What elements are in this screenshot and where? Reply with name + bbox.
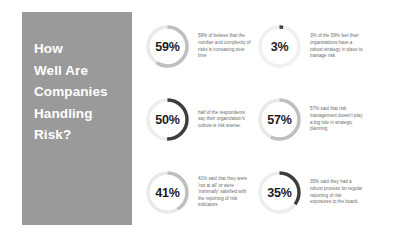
stat-description-3: 3% of the 59% feel their organizations h… [310,33,364,59]
infographic-root: How Well Are Companies Handling Risk? 59… [0,0,403,237]
donut-chart-35: 35% [256,169,303,216]
stat-description-59: 59% of believe that the number and compl… [198,33,252,59]
donut-value-3: 3% [256,23,303,70]
page-title-line-3: Companies [34,81,132,103]
stats-grid: 59% 59% of believe that the number and c… [144,10,403,230]
donut-chart-41: 41% [144,169,191,216]
stat-item-3: 3% 3% of the 59% feel their organization… [256,10,366,83]
donut-chart-50: 50% [144,96,191,143]
page-title-line-5: Risk? [34,124,132,146]
stat-description-50: half of the respondents say their organi… [198,110,252,130]
donut-chart-59: 59% [144,23,191,70]
stat-description-57: 57% said that risk management doesn't pl… [310,106,364,132]
donut-chart-57: 57% [256,96,303,143]
stat-item-57: 57% 57% said that risk management doesn'… [256,83,366,156]
donut-value-50: 50% [144,96,191,143]
stat-description-41: 41% said that they were 'not at all' or … [198,176,252,209]
donut-value-35: 35% [256,169,303,216]
donut-value-57: 57% [256,96,303,143]
stat-description-35: 35% said they had a robust process for r… [310,179,364,205]
page-title-line-4: Handling [34,103,132,125]
stat-item-50: 50% half of the respondents say their or… [144,83,254,156]
stat-item-35: 35% 35% said they had a robust process f… [256,156,366,229]
stat-item-41: 41% 41% said that they were 'not at all'… [144,156,254,229]
title-panel: How Well Are Companies Handling Risk? [22,12,132,225]
stat-item-59: 59% 59% of believe that the number and c… [144,10,254,83]
page-title-line-1: How [34,38,132,60]
donut-chart-3: 3% [256,23,303,70]
donut-value-41: 41% [144,169,191,216]
donut-value-59: 59% [144,23,191,70]
page-title-line-2: Well Are [34,60,132,82]
